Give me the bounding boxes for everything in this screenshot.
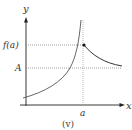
tick-label-f-of-a: f(a)	[2, 40, 19, 50]
curve-right-branch	[84, 45, 122, 66]
x-axis-arrow-icon	[120, 103, 126, 107]
y-axis-arrow-icon	[24, 17, 28, 23]
curve-left-branch	[23, 20, 81, 98]
tick-label-a: a	[80, 108, 85, 118]
y-axis-label: y	[22, 3, 29, 14]
function-graph: y x a f(a) A (v)	[0, 0, 132, 130]
point-a-f-of-a	[82, 43, 85, 46]
x-axis-label: x	[126, 100, 132, 111]
tick-label-A: A	[14, 63, 22, 73]
figure-caption: (v)	[62, 119, 74, 129]
